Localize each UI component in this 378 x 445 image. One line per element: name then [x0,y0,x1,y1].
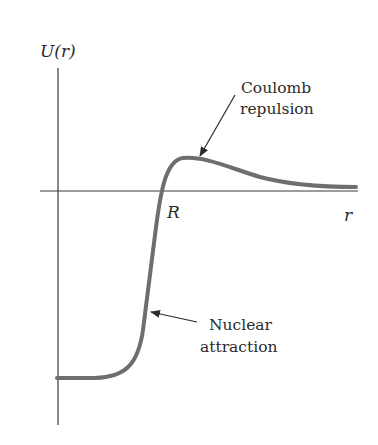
marker-R-label: R [166,202,180,222]
x-axis-label: r [344,205,353,225]
coulomb-arrow [200,95,235,156]
coulomb-label-line2: repulsion [240,100,314,118]
coulomb-label-line1: Coulomb [241,79,311,97]
nuclear-arrow [151,312,197,322]
y-axis-label: U(r) [40,41,76,61]
nuclear-label-line1: Nuclear [209,316,273,334]
potential-diagram: U(r) R r Coulomb repulsion Nuclear attra… [0,0,378,445]
nuclear-label-line2: attraction [200,338,278,356]
